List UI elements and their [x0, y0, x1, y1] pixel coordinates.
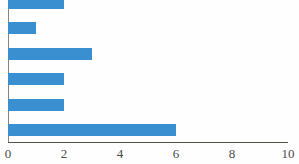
x-tick-label: 2 — [51, 145, 77, 162]
x-axis-tick-labels: 0246810 — [0, 145, 299, 164]
x-tick-label: 10 — [275, 145, 299, 162]
bar — [8, 22, 36, 34]
bar — [8, 48, 92, 60]
bar — [8, 124, 176, 136]
x-tick-label: 0 — [0, 145, 21, 162]
bar — [8, 73, 64, 85]
x-axis-line — [8, 142, 288, 143]
bar — [8, 99, 64, 111]
bar — [8, 0, 64, 9]
x-tick-label: 6 — [163, 145, 189, 162]
bar-chart: 0246810 — [0, 0, 299, 164]
x-tick-label: 8 — [219, 145, 245, 162]
plot-area — [0, 0, 299, 143]
x-tick-label: 4 — [107, 145, 133, 162]
